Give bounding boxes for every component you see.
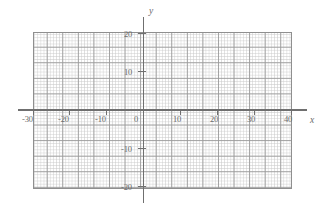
x-tick-label-neg10: -10 (95, 114, 106, 124)
y-tick-label-20: 20 (124, 29, 132, 39)
y-tick-label-10: 10 (124, 67, 132, 77)
x-axis-label: x (310, 115, 314, 125)
x-tick-label-40: 40 (284, 114, 292, 124)
x-tick-label-30: 30 (247, 114, 255, 124)
x-tick-label-neg20: -20 (58, 114, 69, 124)
y-tick-label-neg10: -10 (121, 144, 132, 154)
coordinate-grid-figure: -30 -20 -10 0 10 20 30 40 20 10 -10 -20 … (0, 0, 325, 211)
x-tick-label-10: 10 (173, 114, 181, 124)
y-axis-label: y (149, 6, 153, 16)
x-tick-label-neg30: -30 (22, 114, 33, 124)
x-tick-label-0: 0 (134, 114, 138, 124)
y-tick-label-neg20: -20 (121, 182, 132, 192)
coordinate-plane (0, 0, 325, 211)
x-tick-label-20: 20 (210, 114, 218, 124)
